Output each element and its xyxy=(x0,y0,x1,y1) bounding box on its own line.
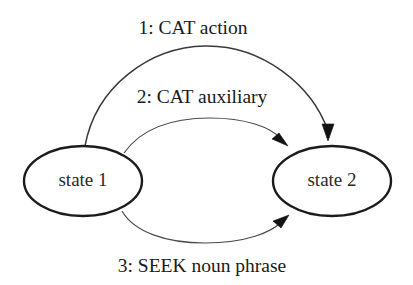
transition-2-curve xyxy=(124,118,281,153)
transition-2-label: 2: CAT auxiliary xyxy=(137,86,268,107)
transition-1-label: 1: CAT action xyxy=(138,17,247,38)
transition-1-arrowhead xyxy=(322,124,334,141)
transition-2-arrowhead xyxy=(272,133,288,146)
state-1-label: state 1 xyxy=(58,169,107,190)
state-2-label: state 2 xyxy=(307,169,356,190)
transition-3-label: 3: SEEK noun phrase xyxy=(118,255,286,276)
transition-arc-3 xyxy=(122,211,289,243)
transition-arc-2 xyxy=(124,118,288,153)
transition-3-curve xyxy=(122,211,281,243)
diagram-canvas: state 1 state 2 1: CAT action 2: CAT aux… xyxy=(0,0,413,285)
state-transition-diagram: state 1 state 2 1: CAT action 2: CAT aux… xyxy=(0,0,413,285)
transition-3-arrowhead xyxy=(273,215,289,228)
